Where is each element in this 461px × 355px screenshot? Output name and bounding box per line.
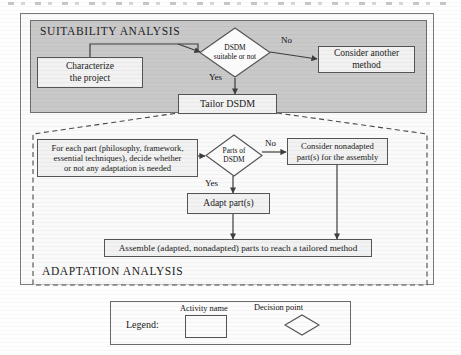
decision-dsdm-label: DSDM suitable or not	[214, 44, 256, 62]
node-consider-another-method-label: Consider another method	[334, 48, 399, 70]
node-adapt-parts-label: Adapt part(s)	[203, 198, 253, 209]
node-for-each-part-label: For each part (philosophy, framework, es…	[51, 143, 183, 173]
legend-title: Legend:	[126, 319, 159, 330]
node-characterize-the-project-label: Characterize the project	[66, 61, 114, 83]
legend-decision-caption: Decision point	[254, 303, 303, 312]
node-characterize-the-project[interactable]: Characterize the project	[37, 57, 143, 88]
edge-label-dsdm-no: No	[281, 35, 292, 45]
legend-activity-symbol	[185, 315, 227, 338]
node-consider-another-method[interactable]: Consider another method	[318, 46, 415, 73]
diagram-canvas: SUITABILITY ANALYSIS ADAPTATION ANALYSIS	[0, 0, 461, 355]
decision-dsdm-suitable-or-not[interactable]: DSDM suitable or not	[199, 27, 271, 78]
node-consider-nonadapted-parts-label: Consider nonadapted part(s) for the asse…	[297, 141, 378, 161]
node-tailor-dsdm[interactable]: Tailor DSDM	[178, 94, 277, 114]
edge-label-parts-no: No	[265, 138, 276, 148]
node-adapt-parts[interactable]: Adapt part(s)	[187, 193, 270, 214]
decision-parts-of-dsdm[interactable]: Parts of DSDM	[205, 134, 263, 177]
decision-parts-label: Parts of DSDM	[223, 147, 246, 165]
node-for-each-part[interactable]: For each part (philosophy, framework, es…	[37, 139, 198, 177]
node-tailor-dsdm-label: Tailor DSDM	[200, 98, 255, 110]
node-assemble-tailored-method[interactable]: Assemble (adapted, nonadapted) parts to …	[104, 239, 372, 257]
node-assemble-tailored-method-label: Assemble (adapted, nonadapted) parts to …	[119, 243, 358, 254]
suitability-analysis-title: SUITABILITY ANALYSIS	[40, 25, 180, 37]
node-consider-nonadapted-parts[interactable]: Consider nonadapted part(s) for the asse…	[287, 138, 388, 165]
edge-label-parts-yes: Yes	[205, 178, 218, 188]
adaptation-analysis-title: ADAPTATION ANALYSIS	[42, 265, 183, 277]
scan-artifact-strip	[0, 0, 461, 10]
legend-activity-caption: Activity name	[180, 304, 228, 313]
